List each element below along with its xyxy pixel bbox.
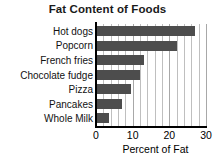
bar <box>96 70 140 80</box>
x-axis-title: Percent of Fat <box>96 143 215 155</box>
bar-row <box>96 97 206 112</box>
x-tick-label: 10 <box>121 129 145 141</box>
bar-row <box>96 82 206 97</box>
category-label: Chocolate fudge <box>0 70 93 81</box>
plot-area <box>96 24 206 126</box>
category-label: Hot dogs <box>0 26 93 37</box>
bar <box>96 55 144 65</box>
bar-row <box>96 53 206 68</box>
x-tick-label: 0 <box>84 129 108 141</box>
chart-title: Fat Content of Foods <box>0 3 215 15</box>
bar-row <box>96 24 206 39</box>
category-label: Whole Milk <box>0 113 93 124</box>
bar <box>96 99 122 109</box>
x-axis-line <box>95 126 207 128</box>
bar <box>96 41 177 51</box>
bar-row <box>96 111 206 126</box>
gridline-major <box>206 24 207 126</box>
bar <box>96 113 109 123</box>
category-label: Pizza <box>0 84 93 95</box>
bar-row <box>96 39 206 54</box>
category-label: Popcorn <box>0 40 93 51</box>
bar-series <box>96 24 206 126</box>
bar-chart: Fat Content of Foods Hot dogsPopcornFren… <box>0 0 215 159</box>
bar <box>96 84 131 94</box>
bar <box>96 26 195 36</box>
x-axis-tick-labels: 0102030 <box>0 129 215 143</box>
y-axis-line <box>95 22 97 128</box>
category-axis-labels: Hot dogsPopcornFrench friesChocolate fud… <box>0 24 93 126</box>
x-tick-label: 20 <box>157 129 181 141</box>
category-label: Pancakes <box>0 99 93 110</box>
bar-row <box>96 68 206 83</box>
category-label: French fries <box>0 55 93 66</box>
x-tick-label: 30 <box>194 129 215 141</box>
